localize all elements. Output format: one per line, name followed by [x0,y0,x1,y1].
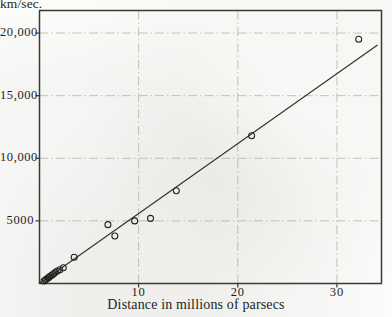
grid-lines [40,11,382,284]
figure-page: km/sec. 500010,00015,00020,000 102030 Di… [0,0,392,317]
data-point-marker [112,233,118,239]
fit-line [40,45,378,284]
data-point-marker [356,36,362,42]
data-points [41,36,362,284]
plot-frame [40,11,382,284]
y-tick-label: 5000 [0,213,34,228]
data-point-marker [105,222,111,228]
velocity-distance-plot [0,0,392,317]
y-tick-label: 15,000 [0,88,34,103]
axis-ticks [36,33,337,287]
data-point-marker [173,188,179,194]
y-tick-label: 10,000 [0,150,34,165]
x-axis-title: Distance in millions of parsecs [0,297,392,313]
y-tick-label: 20,000 [0,25,34,40]
